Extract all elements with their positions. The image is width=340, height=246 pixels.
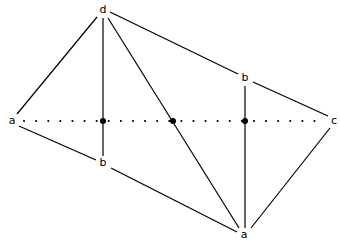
node-label-c: c bbox=[330, 115, 338, 126]
edge-c-a-bottom bbox=[251, 128, 330, 228]
junction-dot-2 bbox=[170, 118, 176, 124]
diagram-canvas: d b a c b a bbox=[0, 0, 340, 246]
edge-b-upper-c bbox=[253, 82, 328, 116]
edge-d-b-upper bbox=[110, 12, 238, 74]
node-label-a-left: a bbox=[8, 115, 17, 126]
junction-dot-1 bbox=[100, 118, 106, 124]
node-label-b-lower: b bbox=[99, 157, 108, 168]
edge-a-left-b-lower bbox=[19, 126, 96, 160]
junction-dot-3 bbox=[242, 118, 248, 124]
edge-d-a-left bbox=[17, 17, 97, 114]
diagram-lines bbox=[0, 0, 340, 246]
node-label-a-bottom: a bbox=[240, 229, 249, 240]
node-label-b-upper: b bbox=[241, 72, 250, 83]
node-label-d: d bbox=[99, 4, 108, 15]
edge-b-lower-a-bottom bbox=[111, 168, 237, 232]
